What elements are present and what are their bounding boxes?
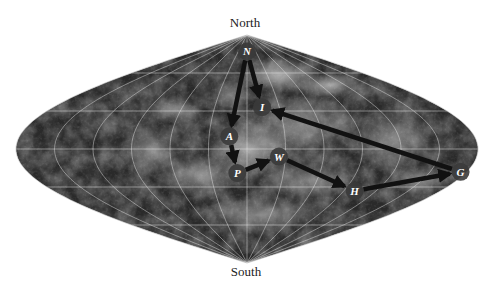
marker-p: P <box>228 164 246 182</box>
marker-label: G <box>457 166 465 178</box>
marker-label: H <box>349 185 359 197</box>
graticule <box>16 35 478 263</box>
marker-n: N <box>238 42 256 60</box>
marker-label: W <box>274 151 285 163</box>
marker-label: N <box>242 45 252 57</box>
map-canvas: NIAPWHG <box>0 0 489 289</box>
marker-g: G <box>452 163 470 181</box>
marker-w: W <box>270 148 288 166</box>
marker-label: I <box>259 101 265 113</box>
marker-h: H <box>346 182 364 200</box>
planet-map: North South <box>0 0 489 289</box>
marker-label: P <box>234 167 241 179</box>
marker-i: I <box>253 98 271 116</box>
marker-label: A <box>225 130 233 142</box>
marker-a: A <box>220 127 238 145</box>
